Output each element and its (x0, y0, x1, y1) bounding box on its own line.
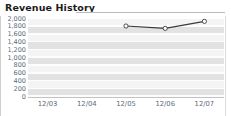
y-axis-tick-label: 0 (0, 94, 26, 101)
x-axis-tick-label: 12/07 (195, 100, 215, 108)
title-divider (76, 12, 225, 13)
x-axis-baseline (28, 97, 224, 98)
y-axis-tick-label: 1,000 (0, 55, 26, 62)
y-axis-tick-label: 1,800 (0, 23, 26, 30)
data-point-marker[interactable] (163, 26, 167, 30)
x-axis-tick-label: 12/03 (38, 100, 58, 108)
y-axis-tick-label: 400 (0, 78, 26, 85)
chart-right-border (225, 16, 226, 116)
x-axis-tick-label: 12/05 (116, 100, 136, 108)
data-point-marker[interactable] (202, 19, 206, 23)
y-axis-tick-label: 800 (0, 62, 26, 69)
x-axis-tick-label: 12/04 (77, 100, 97, 108)
revenue-series (28, 19, 224, 97)
x-axis-tick-label: 12/06 (155, 100, 175, 108)
y-axis: 02004006008001,0001,2001,4001,6001,8002,… (0, 16, 26, 106)
y-axis-tick-label: 2,000 (0, 16, 26, 23)
y-axis-tick-label: 600 (0, 70, 26, 77)
chart-frame: 02004006008001,0001,2001,4001,6001,8002,… (0, 16, 231, 116)
y-axis-tick-label: 1,200 (0, 47, 26, 54)
revenue-history-panel: Revenue History 02004006008001,0001,2001… (0, 0, 231, 116)
x-axis: 12/0312/0412/0512/0612/07 (28, 100, 224, 114)
y-axis-tick-label: 1,400 (0, 39, 26, 46)
data-point-marker[interactable] (124, 24, 128, 28)
y-axis-tick-label: 1,600 (0, 31, 26, 38)
y-axis-tick-label: 200 (0, 86, 26, 93)
